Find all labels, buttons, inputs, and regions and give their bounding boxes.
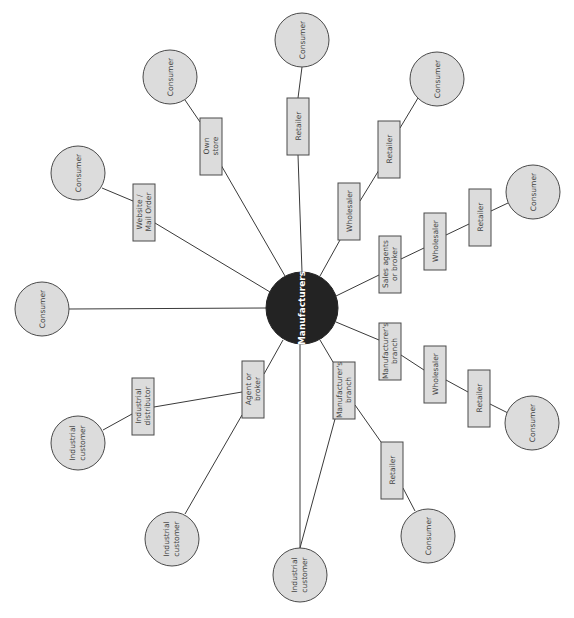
edge-salesagents-wholesaler [401,248,424,259]
industrial-distributor-box: Industrial distributor [132,378,154,435]
edge-sa-wholesaler-retailer [446,224,469,235]
retailer-label: Retailer [385,134,394,164]
edge-mbranch1-wholesaler [401,355,424,370]
consumer-node-mbranch2: Consumer [401,509,455,563]
edge-agent-distributor [154,392,242,407]
edge-center-mbranch2 [320,340,333,362]
edge-mb1-wholesaler-retailer [446,380,468,392]
industrial-customer-label-1: Industrial [290,557,299,592]
consumer-node-direct: Consumer [15,282,69,336]
industrial-customer-label-2: customer [78,424,87,460]
edge-mbranch2-retailer [355,405,381,442]
retailer-box-wholesaler: Retailer [378,121,400,178]
wholesaler-label: Wholesaler [431,219,440,262]
edge-top-retailer-consumer [298,67,302,98]
edge-website-consumer [102,188,133,201]
industrial-customer-label-1: Industrial [68,425,77,460]
consumer-node-wholesaler: Consumer [410,52,464,106]
wholesaler-label: Wholesaler [345,189,354,232]
industrial-customer-node-distributor: Industrial customer [51,416,105,470]
mbranch-label-2: branch [344,377,353,403]
wholesaler-box-salesagents: Wholesaler [424,213,446,270]
consumer-node-ownstore: Consumer [143,50,197,104]
edge-retailer-consumer-w1 [400,98,418,128]
edge-distributor-industrial [103,414,132,430]
manufacturers-branch-box-2: Manufacturer's branch [333,362,355,419]
industrial-customer-label-2: customer [300,556,309,592]
retailer-label: Retailer [475,383,484,413]
wholesaler-box-1: Wholesaler [338,183,360,240]
own-store-box: Own store [200,118,222,175]
edge-center-wholesaler1 [320,240,340,276]
website-mail-order-box: Website / Mail Order [133,184,155,241]
edge-wholesaler1-retailer [360,170,379,201]
edge-center-consumer-direct [69,308,266,309]
consumer-label: Consumer [433,59,442,98]
industrial-customer-label-1: Industrial [162,521,171,556]
edge-mbranch2-industrial [300,419,335,548]
industrial-customer-node-bottom: Industrial customer [273,548,327,602]
consumer-node-website: Consumer [51,146,105,200]
retailer-box-mbranch2: Retailer [381,442,403,499]
mbranch-label-1: Manufacturer's [335,362,344,418]
manufacturers-node: Manufacturers [266,271,338,345]
wholesaler-box-mbranch1: Wholesaler [424,346,446,403]
retailer-box-top: Retailer [287,98,309,155]
edge-agent-industrial [185,415,242,514]
edge-center-ownstore [221,165,285,276]
agent-label-1: Agent or [244,372,253,405]
manufacturers-branch-box-1: Manufacturer's branch [379,323,401,380]
distribution-channel-diagram: Manufacturers Consumer Consumer Consumer… [0,0,574,618]
edge-center-top-retailer [298,155,302,272]
manufacturers-label: Manufacturers [297,271,307,345]
wholesaler-label: Wholesaler [431,352,440,395]
edge-mb1-retailer-consumer [490,404,508,413]
mbranch-label-2: branch [390,338,399,364]
agent-broker-box: Agent or broker [242,361,264,418]
mbranch-label-1: Manufacturer's [381,323,390,379]
agent-label-2: broker [253,376,262,401]
edge-sa-retailer-consumer [491,203,508,211]
own-store-label-1: Own [202,137,211,154]
website-label-2: Mail Order [144,192,153,232]
consumer-label: Consumer [424,516,433,555]
distributor-label-1: Industrial [134,388,143,423]
consumer-node-salesagents: Consumer [506,165,560,219]
edge-center-website [155,223,270,292]
sales-agents-label-2: or broker [390,246,399,281]
industrial-customer-label-2: customer [172,520,181,556]
consumer-label: Consumer [298,20,307,59]
own-store-label-2: store [211,136,220,155]
consumer-label: Consumer [74,153,83,192]
edge-center-salesagents [336,275,379,296]
retailer-label: Retailer [294,111,303,141]
consumer-label: Consumer [529,172,538,211]
sales-agents-label-1: Sales agents [381,240,390,288]
retailer-label: Retailer [388,455,397,485]
edge-ownstore-consumer [185,100,200,122]
sales-agents-box: Sales agents or broker [379,236,401,293]
distributor-label-2: distributor [143,386,152,426]
consumer-label: Consumer [166,57,175,96]
industrial-customer-node-agent: Industrial customer [145,512,199,566]
consumer-node-top: Consumer [275,13,329,67]
consumer-label: Consumer [38,289,47,328]
consumer-node-mbranch1: Consumer [505,396,559,450]
edge-mb2-retailer-consumer [403,488,415,511]
retailer-label: Retailer [476,202,485,232]
edge-center-mbranch1 [336,322,379,340]
edge-center-agent [264,340,283,374]
consumer-label: Consumer [528,403,537,442]
retailer-box-mbranch1: Retailer [468,370,490,427]
website-label-1: Website / [135,194,144,229]
retailer-box-salesagents: Retailer [469,189,491,246]
